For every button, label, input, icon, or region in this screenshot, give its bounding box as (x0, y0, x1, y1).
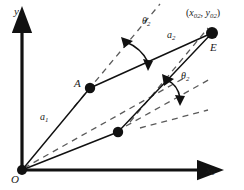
point-E-label: E (210, 42, 217, 53)
solid-segments (22, 33, 212, 170)
node-dots (17, 27, 218, 175)
angle-arc-upper-theta (121, 37, 153, 71)
dashed-line-E-shallow (126, 78, 212, 126)
segment-O-A (22, 88, 90, 170)
dot-point-B (113, 127, 123, 137)
y-axis-label: y0 (14, 6, 23, 18)
origin-label: O (11, 174, 19, 185)
coord-close-paren: ) (217, 7, 220, 18)
theta-upper-subscript: 2 (147, 20, 150, 27)
a1-subscript: 1 (45, 116, 48, 123)
dot-point-A (85, 83, 95, 93)
segment-A-E (90, 33, 212, 88)
geometry-figure: y0 x0 O A E a1 a2 θ2 θ2 (x02, y02) (0, 0, 244, 190)
angle-theta-upper-label: θ2 (142, 16, 150, 27)
coord-x-subscript: 02 (194, 12, 201, 19)
point-A-label: A (74, 78, 81, 89)
a2-subscript: 2 (172, 34, 175, 41)
angle-theta-lower-label: θ2 (181, 71, 189, 82)
coordinate-label: (x02, y02) (186, 8, 220, 19)
dashed-reference-lines (24, 4, 212, 168)
dot-point-E (206, 27, 218, 39)
figure-canvas (0, 0, 244, 190)
y-axis-subscript: 0 (19, 10, 23, 19)
theta-lower-subscript: 2 (186, 75, 189, 82)
coord-y-subscript: 02 (210, 12, 217, 19)
x-axis-label: x0 (206, 164, 215, 176)
segment-a2-label: a2 (167, 30, 175, 41)
segment-O-B (22, 132, 118, 170)
x-axis-subscript: 0 (211, 168, 215, 177)
segment-a1-label: a1 (40, 112, 48, 123)
